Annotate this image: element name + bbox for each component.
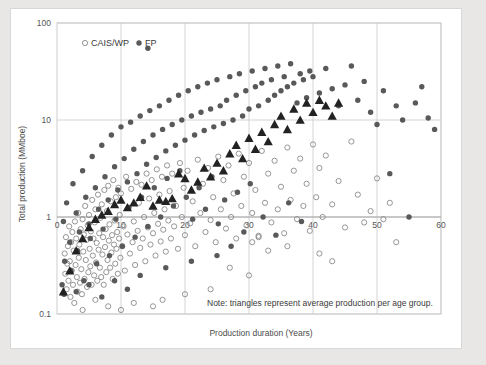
- data-point-cais-wp: [74, 275, 79, 280]
- data-point-fp: [122, 156, 127, 161]
- data-point-fp: [400, 117, 405, 122]
- data-point-cais-wp: [282, 231, 287, 236]
- data-point-fp: [222, 197, 227, 202]
- data-point-fp: [81, 278, 86, 283]
- data-point-fp: [342, 82, 347, 87]
- data-point-fp: [374, 122, 379, 127]
- data-point-cais-wp: [317, 165, 322, 170]
- data-point-cais-wp: [203, 229, 208, 234]
- data-point-fp: [298, 71, 303, 76]
- data-point-fp: [115, 187, 120, 192]
- data-point-cais-wp: [181, 185, 186, 190]
- data-point-fp: [74, 210, 79, 215]
- data-point-cais-wp: [74, 236, 79, 241]
- data-point-cais-wp: [198, 210, 203, 215]
- data-point-fp: [307, 68, 312, 73]
- data-point-average-triangle: [155, 195, 164, 203]
- data-point-cais-wp: [304, 181, 309, 186]
- data-point-fp: [253, 84, 258, 89]
- data-point-fp: [250, 68, 255, 73]
- data-point-cais-wp: [236, 151, 241, 156]
- data-point-fp: [241, 229, 246, 234]
- data-point-fp: [243, 88, 248, 93]
- data-point-average-triangle: [225, 149, 234, 157]
- data-point-cais-wp: [66, 278, 71, 283]
- data-point-average-triangle: [238, 154, 247, 162]
- data-point-fp: [138, 273, 143, 278]
- data-point-average-triangle: [78, 234, 87, 242]
- data-point-fp: [166, 98, 171, 103]
- data-point-fp: [138, 113, 143, 118]
- data-point-cais-wp: [106, 304, 111, 309]
- data-point-cais-wp: [131, 300, 136, 305]
- data-point-cais-wp: [111, 178, 116, 183]
- data-point-fp: [179, 117, 184, 122]
- data-point-average-triangle: [251, 145, 260, 153]
- data-point-fp: [67, 239, 72, 244]
- data-point-fp: [77, 229, 82, 234]
- data-point-fp: [70, 181, 75, 186]
- data-point-cais-wp: [226, 163, 231, 168]
- data-point-fp: [203, 207, 208, 212]
- data-point-cais-wp: [134, 179, 139, 184]
- data-point-cais-wp: [291, 168, 296, 173]
- legend-label: FP: [145, 38, 157, 48]
- data-point-fp: [171, 203, 176, 208]
- data-point-fp: [248, 181, 253, 186]
- data-point-cais-wp: [148, 242, 153, 247]
- data-point-fp: [163, 265, 168, 270]
- data-point-fp: [170, 122, 175, 127]
- data-point-cais-wp: [177, 160, 182, 165]
- data-point-cais-wp: [266, 171, 271, 176]
- data-point-cais-wp: [172, 224, 177, 229]
- x-tick-label: 0: [55, 220, 60, 230]
- data-point-fp: [132, 234, 137, 239]
- data-point-fp: [272, 93, 277, 98]
- data-point-cais-wp: [68, 294, 73, 299]
- data-point-fp: [112, 278, 117, 283]
- data-point-cais-wp: [114, 246, 119, 251]
- data-point-fp: [150, 132, 155, 137]
- data-point-cais-wp: [62, 251, 67, 256]
- data-point-fp: [125, 179, 130, 184]
- data-point-fp: [323, 66, 328, 71]
- data-point-fp: [214, 253, 219, 258]
- data-point-cais-wp: [195, 157, 200, 162]
- data-point-fp: [246, 106, 251, 111]
- data-point-average-triangle: [334, 98, 343, 106]
- x-tick-label: 60: [436, 220, 446, 230]
- data-point-fp: [387, 171, 392, 176]
- data-point-cais-wp: [216, 154, 221, 159]
- data-point-cais-wp: [96, 247, 101, 252]
- data-point-cais-wp: [73, 262, 78, 267]
- data-point-cais-wp: [138, 245, 143, 250]
- chart-card: 0102030405060 0.1110100 CAIS/WPFP Total …: [10, 8, 462, 349]
- data-point-fp: [152, 185, 157, 190]
- data-point-fp: [134, 171, 139, 176]
- data-point-cais-wp: [107, 222, 112, 227]
- data-point-fp: [230, 117, 235, 122]
- data-point-fp: [286, 200, 291, 205]
- data-point-cais-wp: [99, 202, 104, 207]
- data-point-cais-wp: [218, 207, 223, 212]
- data-point-fp: [256, 103, 261, 108]
- data-point-cais-wp: [101, 282, 106, 287]
- data-point-cais-wp: [144, 171, 149, 176]
- data-point-cais-wp: [106, 183, 111, 188]
- data-point-cais-wp: [88, 264, 93, 269]
- legend-item-fp[interactable]: FP: [136, 38, 156, 48]
- data-point-cais-wp: [102, 244, 107, 249]
- legend-item-cais-wp[interactable]: CAIS/WP: [82, 38, 129, 48]
- data-point-fp: [288, 61, 293, 66]
- data-point-average-triangle: [200, 163, 209, 171]
- data-point-fp: [83, 195, 88, 200]
- data-point-fp: [125, 287, 130, 292]
- data-point-cais-wp: [278, 184, 283, 189]
- data-point-cais-wp: [92, 273, 97, 278]
- data-point-fp: [157, 103, 162, 108]
- data-point-cais-wp: [129, 186, 134, 191]
- data-point-cais-wp: [127, 251, 132, 256]
- data-point-fp: [182, 137, 187, 142]
- data-point-fp: [259, 80, 264, 85]
- data-point-fp: [112, 164, 117, 169]
